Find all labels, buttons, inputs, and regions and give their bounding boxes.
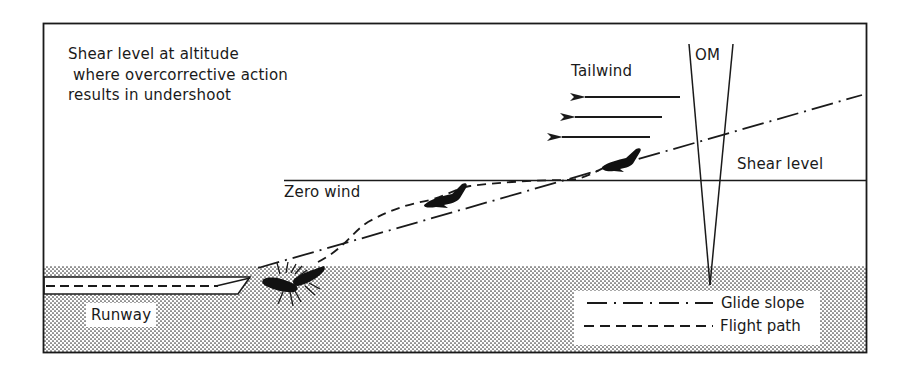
- aircraft-icon: [424, 183, 467, 208]
- aircraft-icon: [602, 148, 641, 172]
- runway-label: Runway: [91, 306, 151, 325]
- glide-slope-line: [258, 95, 862, 268]
- legend-flight-path-label: Flight path: [720, 317, 801, 336]
- annotation-note: Shear level at altitude where overcorrec…: [68, 44, 288, 106]
- tailwind-arrows: [562, 97, 680, 137]
- annotation-line: Shear level at altitude: [68, 44, 288, 65]
- tailwind-label: Tailwind: [571, 62, 632, 81]
- outer-marker-beam-left: [689, 44, 710, 285]
- outer-marker-label: OM: [695, 46, 720, 65]
- annotation-line: where overcorrective action: [68, 65, 288, 86]
- legend-glide-slope-label: Glide slope: [721, 294, 804, 313]
- outer-marker-beam-right: [710, 44, 733, 285]
- flight-path-line: [318, 164, 612, 262]
- zero-wind-label: Zero wind: [284, 183, 361, 202]
- annotation-line: results in undershoot: [68, 85, 288, 106]
- shear-level-label: Shear level: [737, 155, 823, 174]
